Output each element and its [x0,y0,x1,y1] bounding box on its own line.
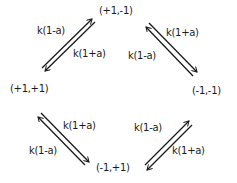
rate-top-right-inner: k(1-a) [128,51,156,61]
rate-top-right-outer: k(1+a) [166,28,199,38]
rate-bottom-right-inner: k(1+a) [172,146,205,156]
rate-bottom-left-outer: k(1-a) [29,146,57,156]
node-right: (-1,-1) [192,86,221,96]
node-top: (+1,-1) [99,6,133,16]
node-left: (+1,+1) [10,84,48,94]
node-bottom: (-1,+1) [96,163,130,173]
rate-bottom-left-inner: k(1+a) [63,121,96,131]
rate-bottom-right-outer: k(1-a) [134,123,162,133]
rate-top-left-outer: k(1-a) [37,26,65,36]
rate-top-left-inner: k(1+a) [73,49,106,59]
